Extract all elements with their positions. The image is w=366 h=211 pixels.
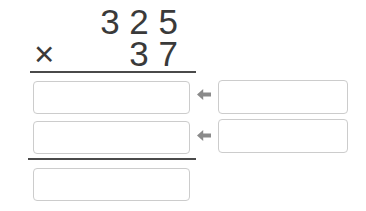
partial-product-2-input[interactable] [33, 121, 190, 154]
final-product-input[interactable] [33, 168, 190, 201]
helper-2-input[interactable] [218, 119, 348, 153]
helper-1-input[interactable] [218, 80, 348, 114]
left-arrow-icon [197, 130, 211, 141]
rule-line-bottom [28, 158, 196, 160]
multiplication-worksheet: 3 2 5 × 3 7 [0, 0, 366, 211]
rule-line-top [30, 71, 196, 73]
partial-product-1-input[interactable] [33, 81, 190, 114]
multiplier: 3 7 [0, 36, 178, 71]
left-arrow-icon [197, 89, 211, 100]
